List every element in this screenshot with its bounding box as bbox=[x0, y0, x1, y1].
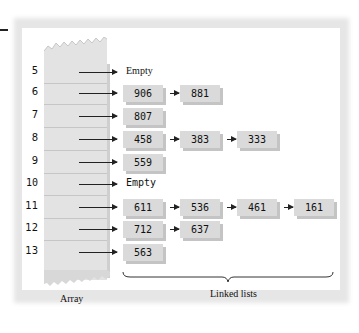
empty-slot-label: Empty bbox=[126, 177, 156, 188]
empty-slot-label: Empty bbox=[126, 65, 153, 76]
array-slot-divider bbox=[44, 150, 107, 151]
slot-index: 11 bbox=[14, 200, 38, 211]
array-torn-bottom-edge bbox=[44, 270, 110, 286]
slot-pointer-arrow bbox=[79, 207, 117, 208]
slot-index: 7 bbox=[14, 109, 38, 120]
list-node: 458 bbox=[123, 131, 163, 148]
slot-pointer-arrow bbox=[79, 229, 117, 230]
array-slot-divider bbox=[44, 83, 107, 84]
array-torn-top-edge bbox=[44, 37, 107, 61]
list-node: 881 bbox=[180, 85, 220, 102]
array-slot-divider bbox=[44, 195, 107, 196]
slot-index: 12 bbox=[14, 222, 38, 233]
list-node: 559 bbox=[123, 154, 163, 171]
next-pointer-arrow bbox=[170, 207, 179, 208]
next-pointer-arrow bbox=[227, 139, 236, 140]
slot-index: 13 bbox=[14, 245, 38, 256]
array-slot-divider bbox=[44, 240, 107, 241]
list-node: 611 bbox=[123, 199, 163, 216]
list-node: 333 bbox=[237, 131, 277, 148]
next-pointer-arrow bbox=[170, 139, 179, 140]
list-node: 536 bbox=[180, 199, 220, 216]
array-side-shade bbox=[107, 64, 110, 278]
slot-pointer-arrow bbox=[79, 139, 117, 140]
list-node: 563 bbox=[123, 244, 163, 261]
linked-lists-brace bbox=[122, 270, 334, 284]
array-slot-divider bbox=[44, 218, 107, 219]
slot-pointer-arrow bbox=[79, 116, 117, 117]
slot-pointer-arrow bbox=[79, 252, 117, 253]
slot-index: 9 bbox=[14, 155, 38, 166]
array-slot-divider bbox=[44, 127, 107, 128]
list-node: 637 bbox=[180, 221, 220, 238]
array-slot-divider bbox=[44, 173, 107, 174]
array-slot-divider bbox=[44, 104, 107, 105]
list-node: 712 bbox=[123, 221, 163, 238]
list-node: 906 bbox=[123, 85, 163, 102]
list-node: 161 bbox=[294, 199, 334, 216]
slot-index: 6 bbox=[14, 86, 38, 97]
slot-index: 5 bbox=[14, 65, 38, 76]
array-caption: Array bbox=[60, 293, 83, 304]
slot-pointer-arrow bbox=[79, 162, 117, 163]
linked-lists-caption: Linked lists bbox=[210, 288, 257, 299]
next-pointer-arrow bbox=[170, 229, 179, 230]
list-node: 461 bbox=[237, 199, 277, 216]
slot-pointer-arrow bbox=[79, 184, 117, 185]
next-pointer-arrow bbox=[227, 207, 236, 208]
margin-mark bbox=[0, 29, 8, 31]
slot-index: 10 bbox=[14, 177, 38, 188]
slot-index: 8 bbox=[14, 132, 38, 143]
list-node: 807 bbox=[123, 108, 163, 125]
next-pointer-arrow bbox=[284, 207, 293, 208]
slot-pointer-arrow bbox=[79, 72, 117, 73]
list-node: 383 bbox=[180, 131, 220, 148]
next-pointer-arrow bbox=[170, 93, 179, 94]
slot-pointer-arrow bbox=[79, 93, 117, 94]
